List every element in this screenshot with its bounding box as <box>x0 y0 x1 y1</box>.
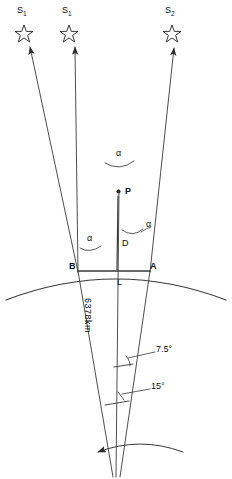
segment-label-l: L <box>117 278 122 287</box>
point-label-p: P <box>125 187 131 196</box>
earth-radius-label: 6378km <box>83 298 92 333</box>
star-label-right: S2 <box>165 6 175 17</box>
ray-b-to-star-left <box>30 47 78 272</box>
angle-arc-alpha-right <box>122 229 143 234</box>
star-icon-middle <box>60 25 78 42</box>
segment-label-d: D <box>122 239 129 248</box>
star-icon-left <box>15 25 33 42</box>
earth-surface-arc <box>6 279 226 300</box>
point-label-b: B <box>69 262 76 271</box>
leader-line-15 <box>122 389 150 394</box>
angle-label-15: 15° <box>151 382 165 391</box>
diagram-canvas <box>0 0 232 479</box>
angle-label-7p5: 7.5° <box>156 345 172 354</box>
radius-line-a-center <box>120 271 150 477</box>
rotation-arrow <box>98 444 183 452</box>
angle-arc-15 <box>118 392 124 400</box>
star-icon-right <box>163 25 181 42</box>
point-p-dot <box>116 189 120 193</box>
angle-arc-alpha-top <box>105 161 134 167</box>
ray-b-to-star-middle <box>75 47 78 272</box>
leader-line-7p5 <box>128 352 155 358</box>
ray-a-to-star-right <box>150 48 174 272</box>
angle-label-alpha-left: α <box>87 234 92 243</box>
parallax-geometry-diagram: S1 S1 S2 P B A D L α α α 7.5° 15° 6378km <box>0 0 232 479</box>
angle-label-alpha-top: α <box>116 149 121 158</box>
star-label-middle: S1 <box>62 6 72 17</box>
angle-label-alpha-right: α <box>146 220 151 229</box>
point-label-a: A <box>150 262 157 271</box>
angle-arc-alpha-left <box>80 246 101 251</box>
star-label-left: S1 <box>17 6 27 17</box>
